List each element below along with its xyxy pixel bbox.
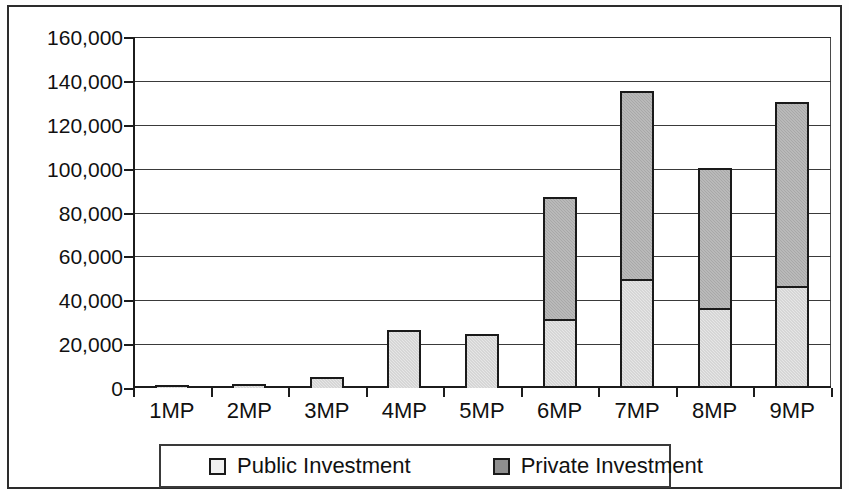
y-axis-tick-mark (124, 125, 133, 127)
y-axis-tick-mark (124, 256, 133, 258)
legend-label-public: Public Investment (237, 454, 411, 478)
bar-segment-public[interactable] (465, 334, 499, 388)
x-axis-tick-label: 9MP (753, 399, 831, 423)
y-axis-tick-label: 40,000 (59, 290, 123, 311)
y-axis-tick-label: 100,000 (47, 158, 123, 179)
y-axis-tick-mark (124, 300, 133, 302)
bar-segment-public[interactable] (310, 377, 344, 388)
stacked-bar[interactable] (775, 102, 809, 388)
x-axis-tick-label: 1MP (133, 399, 211, 423)
y-axis-tick-mark (124, 169, 133, 171)
stacked-bar[interactable] (698, 168, 732, 388)
y-axis-tick-mark (124, 344, 133, 346)
x-axis-tick-mark (521, 388, 523, 397)
y-axis-tick-label: 120,000 (47, 114, 123, 135)
x-axis-tick-mark (211, 388, 213, 397)
chart-screenshot: 020,00040,00060,00080,000100,000120,0001… (0, 0, 849, 497)
bar-segment-public[interactable] (543, 319, 577, 388)
x-axis: 1MP2MP3MP4MP5MP6MP7MP8MP9MP (133, 388, 831, 428)
x-axis-tick-mark (831, 388, 833, 397)
public-swatch-icon (209, 458, 226, 475)
x-axis-tick-label: 5MP (443, 399, 521, 423)
x-axis-tick-label: 4MP (366, 399, 444, 423)
scan-edge (0, 490, 849, 497)
chart-frame: 020,00040,00060,00080,000100,000120,0001… (7, 5, 842, 489)
y-axis-tick-label: 0 (111, 378, 123, 399)
y-axis-tick-label: 60,000 (59, 246, 123, 267)
x-axis-tick-mark (598, 388, 600, 397)
y-axis-tick-label: 20,000 (59, 334, 123, 355)
x-axis-tick-label: 2MP (211, 399, 289, 423)
x-axis-tick-label: 6MP (521, 399, 599, 423)
bar-segment-public[interactable] (698, 308, 732, 388)
bar-segment-private[interactable] (620, 91, 654, 280)
bar-segment-private[interactable] (698, 168, 732, 308)
stacked-bar[interactable] (387, 330, 421, 388)
stacked-bar[interactable] (465, 334, 499, 388)
x-axis-tick-mark (443, 388, 445, 397)
y-axis-tick-mark (124, 388, 133, 390)
legend-item-public[interactable]: Public Investment (209, 446, 411, 486)
bar-segment-private[interactable] (543, 197, 577, 319)
x-axis-tick-label: 7MP (598, 399, 676, 423)
x-axis-tick-label: 8MP (676, 399, 754, 423)
bar-segment-public[interactable] (620, 279, 654, 388)
x-axis-tick-mark (753, 388, 755, 397)
legend-label-private: Private Investment (521, 454, 703, 478)
x-axis-tick-mark (133, 388, 135, 397)
x-axis-tick-mark (676, 388, 678, 397)
y-axis-tick-label: 160,000 (47, 27, 123, 48)
chart-legend: Public Investment Private Investment (159, 444, 671, 488)
y-axis-tick-mark (124, 37, 133, 39)
bar-segment-public[interactable] (775, 286, 809, 388)
bar-segment-private[interactable] (775, 102, 809, 286)
y-axis-tick-mark (124, 213, 133, 215)
x-axis-tick-mark (366, 388, 368, 397)
bar-segment-public[interactable] (387, 330, 421, 388)
legend-item-private[interactable]: Private Investment (493, 446, 703, 486)
x-axis-tick-mark (288, 388, 290, 397)
stacked-bar[interactable] (310, 377, 344, 388)
stacked-bar[interactable] (620, 91, 654, 388)
y-axis-tick-mark (124, 81, 133, 83)
y-axis-labels: 020,00040,00060,00080,000100,000120,0001… (27, 37, 123, 388)
x-axis-tick-label: 3MP (288, 399, 366, 423)
y-axis-tick-label: 140,000 (47, 70, 123, 91)
stacked-bar[interactable] (543, 197, 577, 388)
bars-layer (133, 37, 831, 388)
private-swatch-icon (493, 458, 510, 475)
y-axis-tick-label: 80,000 (59, 202, 123, 223)
